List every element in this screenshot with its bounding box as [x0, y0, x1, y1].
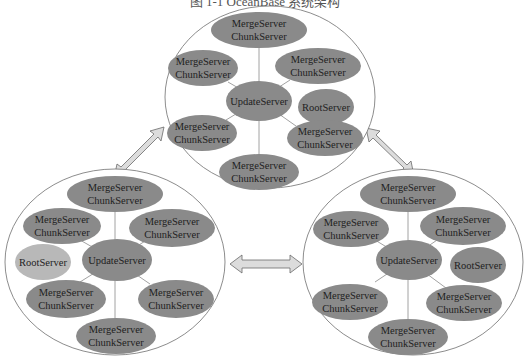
node-label: ChunkServer — [144, 229, 200, 240]
node-label: MergeServer — [232, 18, 287, 29]
left-root-server: RootServer — [15, 244, 71, 280]
left-node-s: MergeServer ChunkServer — [76, 318, 156, 354]
node-label: MergeServer — [324, 217, 379, 228]
top-update-server: UpdateServer — [226, 81, 292, 121]
node-label: MergeServer — [89, 324, 144, 335]
right-node-sw: MergeServer ChunkServer — [312, 284, 388, 320]
node-label: ChunkServer — [323, 230, 379, 241]
cluster-right: MergeServer ChunkServer MergeServer Chun… — [303, 169, 523, 355]
node-label: MergeServer — [149, 287, 204, 298]
top-node-s: MergeServer ChunkServer — [219, 154, 299, 190]
node-label: ChunkServer — [290, 67, 346, 78]
node-shape — [420, 207, 506, 245]
node-shape — [138, 280, 214, 318]
top-root-server: RootServer — [298, 89, 354, 125]
node-label: ChunkServer — [87, 195, 143, 206]
right-update-server: UpdateServer — [376, 240, 442, 280]
top-node-sw: MergeServer ChunkServer — [167, 115, 237, 151]
cluster-left: MergeServer ChunkServer MergeServer Chun… — [5, 169, 225, 355]
top-node-se: MergeServer ChunkServer — [287, 120, 363, 156]
node-label: ChunkServer — [231, 31, 287, 42]
right-node-ne: MergeServer ChunkServer — [420, 207, 506, 245]
node-label: UpdateServer — [380, 255, 438, 266]
left-node-ne: MergeServer ChunkServer — [129, 209, 215, 247]
left-update-server: UpdateServer — [82, 239, 152, 281]
node-label: MergeServer — [232, 160, 287, 171]
node-label: ChunkServer — [148, 300, 204, 311]
node-label: MergeServer — [39, 287, 94, 298]
node-label: MergeServer — [298, 126, 353, 137]
right-node-nw: MergeServer ChunkServer — [313, 211, 389, 247]
node-label: UpdateServer — [230, 96, 288, 107]
node-label: UpdateServer — [88, 255, 146, 266]
node-label: MergeServer — [176, 56, 231, 67]
top-node-n: MergeServer ChunkServer — [211, 12, 307, 48]
node-label: ChunkServer — [436, 304, 492, 315]
arrow-shape — [230, 255, 302, 273]
node-label: ChunkServer — [34, 227, 90, 238]
node-label: ChunkServer — [88, 337, 144, 348]
node-label: ChunkServer — [380, 338, 436, 349]
node-label: MergeServer — [323, 290, 378, 301]
top-node-nw: MergeServer ChunkServer — [168, 50, 238, 86]
node-label: ChunkServer — [175, 69, 231, 80]
architecture-diagram: MergeServer ChunkServer MergeServer Chun… — [0, 0, 528, 362]
node-label: ChunkServer — [322, 303, 378, 314]
right-node-s: MergeServer ChunkServer — [368, 319, 448, 355]
node-label: MergeServer — [291, 54, 346, 65]
top-node-ne: MergeServer ChunkServer — [275, 48, 361, 84]
node-label: ChunkServer — [380, 195, 436, 206]
node-label: MergeServer — [436, 214, 491, 225]
right-node-se: MergeServer ChunkServer — [426, 285, 502, 321]
left-node-se: MergeServer ChunkServer — [138, 280, 214, 318]
left-node-nw: MergeServer ChunkServer — [23, 208, 101, 244]
left-node-n: MergeServer ChunkServer — [67, 176, 163, 212]
node-label: RootServer — [19, 257, 67, 268]
node-label: RootServer — [454, 260, 502, 271]
left-node-sw: MergeServer ChunkServer — [26, 280, 106, 318]
node-label: MergeServer — [175, 121, 230, 132]
node-label: ChunkServer — [297, 139, 353, 150]
node-label: ChunkServer — [435, 227, 491, 238]
node-label: MergeServer — [381, 182, 436, 193]
node-label: MergeServer — [35, 214, 90, 225]
node-label: ChunkServer — [231, 173, 287, 184]
node-label: MergeServer — [381, 325, 436, 336]
arrow-left-right — [230, 255, 302, 273]
node-label: ChunkServer — [174, 134, 230, 145]
node-label: ChunkServer — [38, 300, 94, 311]
cluster-top: MergeServer ChunkServer MergeServer Chun… — [165, 6, 375, 190]
node-label: RootServer — [302, 102, 350, 113]
node-label: MergeServer — [437, 291, 492, 302]
right-root-server: RootServer — [450, 247, 506, 283]
right-node-n: MergeServer ChunkServer — [360, 176, 456, 212]
node-label: MergeServer — [88, 182, 143, 193]
node-label: MergeServer — [145, 216, 200, 227]
node-shape — [26, 280, 106, 318]
node-shape — [129, 209, 215, 247]
